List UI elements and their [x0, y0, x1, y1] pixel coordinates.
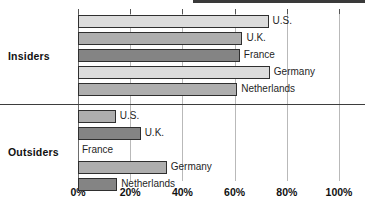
group-label-outsiders: Outsiders	[8, 146, 59, 158]
tick-mark-60%	[235, 9, 236, 14]
bar-label: France	[78, 143, 113, 156]
tick-mark-100%	[339, 9, 340, 14]
bar-insiders-france	[78, 49, 240, 62]
bar-outsiders-us	[78, 110, 116, 123]
top-edge-strip	[193, 0, 365, 3]
bar-insiders-netherlands	[78, 83, 237, 96]
bar-label: Germany	[270, 65, 315, 78]
bar-label: U.S.	[116, 109, 139, 122]
bar-row: Germany	[78, 66, 339, 79]
tick-mark-40%	[182, 9, 183, 14]
bar-insiders-us	[78, 15, 269, 28]
bar-row: Netherlands	[78, 178, 339, 191]
bar-insiders-germany	[78, 66, 270, 79]
tick-mark-20%	[130, 9, 131, 14]
bar-label: U.K.	[141, 126, 164, 139]
bar-label: U.S.	[269, 14, 292, 27]
bar-chart: Insiders Outsiders 0%20%40%60%80%100%U.S…	[0, 0, 365, 212]
bar-label: France	[240, 48, 275, 61]
bar-row: U.S.	[78, 15, 339, 28]
tick-mark-0%	[78, 9, 79, 14]
bar-row: Netherlands	[78, 83, 339, 96]
bar-label: Germany	[167, 160, 212, 173]
group-label-insiders: Insiders	[8, 50, 50, 62]
bar-label: Netherlands	[237, 82, 295, 95]
bar-row: U.S.	[78, 110, 339, 123]
bar-outsiders-netherlands	[78, 178, 117, 191]
bar-label: U.K.	[242, 31, 265, 44]
bar-row: U.K.	[78, 127, 339, 140]
bar-insiders-uk	[78, 32, 242, 45]
bar-row: Germany	[78, 161, 339, 174]
group-separator-line	[0, 104, 365, 105]
bar-outsiders-germany	[78, 161, 167, 174]
bar-outsiders-uk	[78, 127, 141, 140]
bar-row: France	[78, 49, 339, 62]
gridline-100%	[339, 13, 340, 181]
bar-label: Netherlands	[117, 177, 175, 190]
bar-row: U.K.	[78, 32, 339, 45]
bar-row: France	[78, 144, 339, 157]
